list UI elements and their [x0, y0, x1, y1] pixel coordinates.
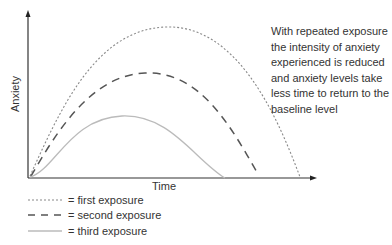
dashed-line-icon [28, 210, 62, 220]
x-axis-arrow-icon [310, 176, 317, 181]
solid-line-icon [28, 226, 62, 236]
annotation-text: With repeated exposure the intensity of … [271, 24, 391, 117]
legend-item-second: = second exposure [28, 208, 161, 224]
legend: = first exposure = second exposure = thi… [28, 192, 161, 239]
legend-label: = third exposure [68, 225, 147, 237]
legend-item-first: = first exposure [28, 192, 161, 208]
y-axis-label: Anxiety [9, 72, 21, 116]
y-axis-arrow-icon [26, 10, 31, 17]
series-third-exposure [30, 116, 225, 178]
series-first-exposure [30, 27, 300, 177]
legend-item-third: = third exposure [28, 223, 161, 239]
legend-label: = second exposure [68, 209, 161, 221]
legend-label: = first exposure [68, 194, 144, 206]
series-second-exposure [31, 73, 258, 176]
x-axis-label: Time [152, 180, 176, 192]
dotted-line-icon [28, 195, 62, 205]
